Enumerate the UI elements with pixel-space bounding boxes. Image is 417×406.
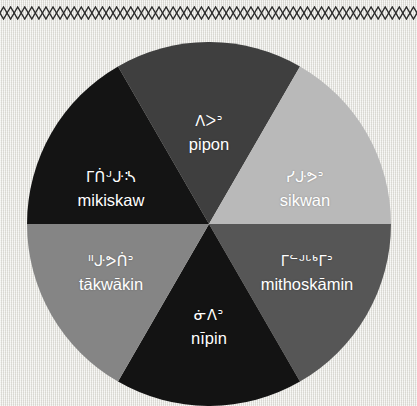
border-diamond xyxy=(382,7,389,19)
border-diamond xyxy=(141,7,148,19)
border-diamond xyxy=(148,7,155,19)
border-diamond xyxy=(410,7,417,19)
border-diamond xyxy=(106,7,113,19)
border-diamond xyxy=(332,7,339,19)
seasons-wheel-page: ᐱᐳᐣ pipon ᓯᒙᕗᐣ sikwan ᒥᓪᒢᒡᒃᒥᐣ mithoskāmi… xyxy=(0,0,417,406)
border-diamond xyxy=(304,7,311,19)
border-diamond xyxy=(325,7,332,19)
border-diamond xyxy=(368,7,375,19)
border-diamond xyxy=(269,7,276,19)
border-diamond xyxy=(233,7,240,19)
border-diamond xyxy=(21,7,28,19)
border-diamond xyxy=(353,7,360,19)
border-diamond xyxy=(254,7,261,19)
border-diamond xyxy=(78,7,85,19)
border-diamond xyxy=(247,7,254,19)
border-diamond xyxy=(120,7,127,19)
border-diamond xyxy=(283,7,290,19)
border-diamond xyxy=(297,7,304,19)
border-diamond xyxy=(226,7,233,19)
border-diamond xyxy=(163,7,170,19)
border-diamond xyxy=(389,7,396,19)
diamond-chain-border-icon xyxy=(0,6,417,20)
border-diamond xyxy=(64,7,71,19)
border-diamond xyxy=(191,7,198,19)
border-diamond xyxy=(403,7,410,19)
border-diamond xyxy=(57,7,64,19)
border-diamond xyxy=(14,7,21,19)
border-diamond xyxy=(262,7,269,19)
border-diamond xyxy=(339,7,346,19)
border-diamond xyxy=(7,7,14,19)
border-diamond xyxy=(28,7,35,19)
border-diamond xyxy=(113,7,120,19)
border-diamond xyxy=(360,7,367,19)
border-diamond xyxy=(396,7,403,19)
seasons-wheel-graphic xyxy=(27,42,391,406)
border-diamond xyxy=(127,7,134,19)
border-diamond xyxy=(99,7,106,19)
border-diamond xyxy=(311,7,318,19)
seasons-wheel: ᐱᐳᐣ pipon ᓯᒙᕗᐣ sikwan ᒥᓪᒢᒡᒃᒥᐣ mithoskāmi… xyxy=(27,42,391,406)
border-diamond xyxy=(219,7,226,19)
border-diamond xyxy=(205,7,212,19)
border-diamond xyxy=(85,7,92,19)
border-diamond xyxy=(35,7,42,19)
border-diamond xyxy=(240,7,247,19)
border-diamond xyxy=(346,7,353,19)
border-diamond xyxy=(318,7,325,19)
border-diamond xyxy=(198,7,205,19)
border-diamond xyxy=(170,7,177,19)
border-diamond xyxy=(42,7,49,19)
border-diamond xyxy=(155,7,162,19)
border-diamond xyxy=(0,7,7,19)
border-diamond xyxy=(177,7,184,19)
border-diamond xyxy=(92,7,99,19)
border-diamond xyxy=(276,7,283,19)
border-diamond xyxy=(290,7,297,19)
border-diamond xyxy=(375,7,382,19)
border-diamond xyxy=(71,7,78,19)
border-diamond xyxy=(134,7,141,19)
border-diamond xyxy=(212,7,219,19)
border-diamond xyxy=(49,7,56,19)
border-diamond xyxy=(184,7,191,19)
